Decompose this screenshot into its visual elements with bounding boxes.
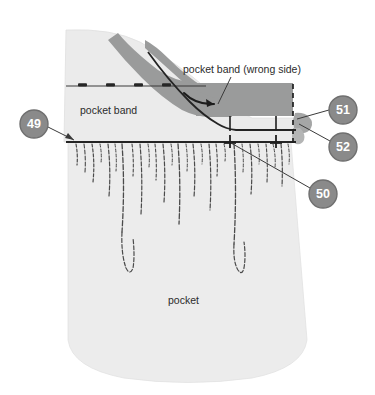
annotation-pocket: pocket <box>168 294 199 306</box>
callout-52[interactable]: 52 <box>329 133 357 161</box>
pocket-body-shape <box>68 142 307 383</box>
diagram-canvas: 49 50 51 52 <box>0 0 375 395</box>
callout-49[interactable]: 49 <box>20 110 48 138</box>
annotation-pocket-band-wrong-side: pocket band (wrong side) <box>183 63 301 75</box>
callout-50-label: 50 <box>316 187 330 201</box>
callout-52-label: 52 <box>336 140 350 154</box>
callout-51[interactable]: 51 <box>329 96 357 124</box>
pocket-band-sewing-diagram: 49 50 51 52 pocket band (wrong side) poc… <box>0 0 375 395</box>
annotation-pocket-band: pocket band <box>80 104 137 116</box>
callout-51-label: 51 <box>336 103 350 117</box>
callout-50[interactable]: 50 <box>309 180 337 208</box>
callout-49-label: 49 <box>27 117 41 131</box>
